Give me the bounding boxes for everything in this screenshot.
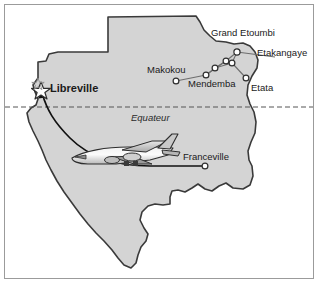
label-libreville: Libreville [50,83,98,94]
label-etakangaye: Etakangaye [257,48,307,58]
gabon-landmass [27,16,258,268]
marker-node-upper [229,60,235,66]
marker-franceville [202,163,208,169]
marker-grand-etoumbi [234,49,240,55]
label-makokou: Makokou [147,65,186,75]
marker-node-lower [223,58,229,64]
marker-etata [243,75,249,81]
map-graphic [0,0,319,284]
label-etata: Etata [251,83,273,93]
marker-node-mid [212,65,218,71]
label-equateur: Equateur [131,113,170,123]
label-franceville: Franceville [183,152,229,162]
label-mendemba: Mendemba [188,79,236,89]
label-grand-etoumbi: Grand Etoumbi [211,28,275,38]
map-figure: Libreville Equateur Grand Etoumbi Etakan… [0,0,319,284]
marker-makokou [173,78,179,84]
